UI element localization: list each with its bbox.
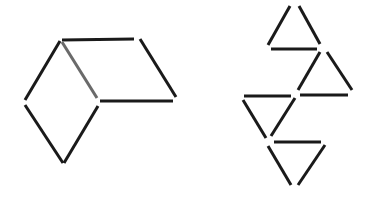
matchstick-top-horizontal (62, 39, 134, 40)
matchstick-diagram (0, 0, 369, 198)
